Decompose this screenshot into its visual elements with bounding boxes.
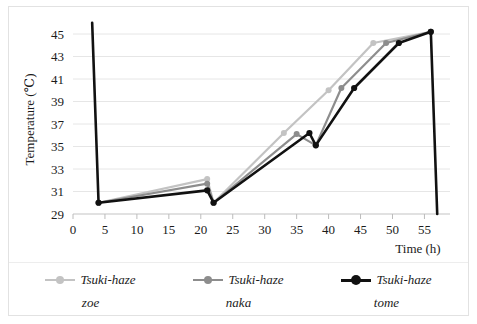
y-tick-label: 43 <box>51 49 64 64</box>
legend-label: Tsuki-haze <box>376 272 431 288</box>
data-point-marker <box>370 40 376 46</box>
data-point-marker <box>306 130 312 136</box>
y-tick-label: 37 <box>51 117 65 132</box>
x-tick-label: 20 <box>194 222 207 237</box>
chart-legend: Tsuki-hazezoeTsuki-hazenakaTsuki-hazetom… <box>9 266 468 318</box>
data-point-marker <box>326 87 332 93</box>
x-tick-label: 45 <box>354 222 367 237</box>
data-point-marker <box>95 200 101 206</box>
x-tick-label: 40 <box>322 222 335 237</box>
chart-figure: 293133353739414345 051015202530354045505… <box>0 0 477 324</box>
legend-row: Tsuki-haze <box>193 272 283 288</box>
legend-label: Tsuki-haze <box>228 272 283 288</box>
y-tick-label: 39 <box>51 94 64 109</box>
x-tick-label: 5 <box>102 222 109 237</box>
y-tick-label: 41 <box>51 72 64 87</box>
legend-entry-tome[interactable]: Tsuki-hazetome <box>324 272 450 311</box>
x-tick-label: 10 <box>130 222 143 237</box>
x-tick-labels-group: 0510152025303540455055 <box>70 222 431 237</box>
x-tick-label: 0 <box>70 222 77 237</box>
x-tick-label: 25 <box>226 222 239 237</box>
legend-sublabel: naka <box>226 295 251 311</box>
x-axis-title: Time (h) <box>395 241 440 256</box>
x-tick-label: 50 <box>386 222 399 237</box>
legend-row: Tsuki-haze <box>45 272 135 288</box>
legend-sublabel: zoe <box>82 295 99 311</box>
x-tick-label: 15 <box>162 222 175 237</box>
legend-label: Tsuki-haze <box>80 272 135 288</box>
y-tick-labels-group: 293133353739414345 <box>51 27 65 222</box>
y-tick-label: 35 <box>51 139 64 154</box>
tickmarks-group <box>73 214 424 219</box>
data-point-marker <box>338 85 344 91</box>
legend-entry-naka[interactable]: Tsuki-hazenaka <box>176 272 302 311</box>
gridlines-group <box>73 34 450 214</box>
legend-row: Tsuki-haze <box>341 272 431 288</box>
series-line-tome <box>92 23 437 214</box>
legend-swatch-icon <box>341 274 371 286</box>
x-tick-label: 35 <box>290 222 303 237</box>
y-tick-label: 45 <box>51 27 64 42</box>
data-point-marker <box>281 130 287 136</box>
data-point-marker <box>428 29 434 35</box>
x-tick-label: 30 <box>258 222 271 237</box>
data-point-marker <box>294 131 300 137</box>
series-line-zoe <box>99 32 431 203</box>
data-point-marker <box>396 40 402 46</box>
y-tick-label: 31 <box>51 184 64 199</box>
legend-marker-icon <box>204 276 212 284</box>
data-point-marker <box>204 181 210 187</box>
legend-marker-icon <box>351 275 361 285</box>
data-point-marker <box>210 200 216 206</box>
y-tick-label: 29 <box>51 207 64 222</box>
x-tick-label: 55 <box>418 222 431 237</box>
data-point-marker <box>351 85 357 91</box>
data-series-group <box>92 23 437 214</box>
legend-divider <box>9 262 468 263</box>
legend-swatch-icon <box>193 274 223 286</box>
data-point-marker <box>313 142 319 148</box>
legend-swatch-icon <box>45 274 75 286</box>
data-point-marker <box>204 187 210 193</box>
legend-entry-zoe[interactable]: Tsuki-hazezoe <box>28 272 154 311</box>
data-point-marker <box>383 40 389 46</box>
y-axis-title: Temperature (℃) <box>22 74 37 166</box>
legend-sublabel: tome <box>374 295 399 311</box>
series-line-naka <box>99 32 431 203</box>
y-tick-label: 33 <box>51 162 64 177</box>
legend-marker-icon <box>56 276 64 284</box>
